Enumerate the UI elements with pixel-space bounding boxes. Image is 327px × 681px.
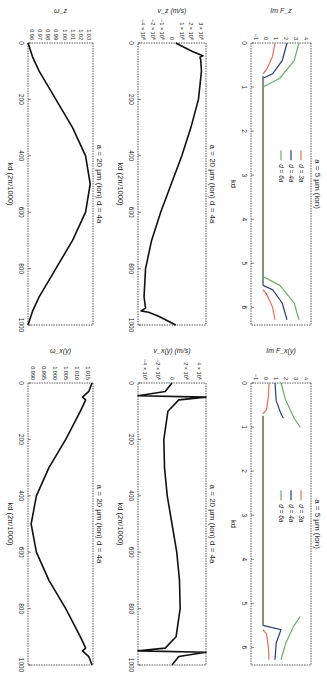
x-tick-label: 2	[241, 469, 248, 473]
x-tick-label: 0	[128, 41, 135, 45]
series-line	[263, 290, 275, 320]
series-line	[263, 630, 269, 660]
y-tick-label: 4 × 10⁶	[196, 362, 202, 380]
x-tick-label: 0	[18, 381, 25, 385]
y-tick-label: 1.005	[63, 366, 69, 380]
x-axis-label: kd (2π/1000)	[116, 502, 125, 546]
x-tick-label: 4	[241, 557, 248, 561]
y-tick-label: 0	[263, 377, 269, 380]
x-axis-label: kd (2π/1000)	[6, 502, 15, 546]
legend-label: d = 3a	[298, 164, 305, 183]
x-tick-label: 400	[18, 490, 25, 501]
y-tick-label: 3	[293, 377, 299, 380]
legend-label: d = 4a	[288, 504, 295, 523]
y-tick-label: −1	[253, 374, 259, 380]
y-tick-label: −1 × 10⁶	[159, 19, 165, 40]
x-tick-label: 600	[128, 207, 135, 218]
y-tick-label: 0	[169, 37, 175, 40]
panel-omega_xy: a = 20 µm (ion) d = 4a02004006008001000k…	[6, 347, 104, 673]
plot-frame	[251, 383, 311, 665]
x-axis-label: kd	[229, 520, 238, 528]
x-tick-label: 200	[128, 434, 135, 445]
x-tick-label: 0	[128, 381, 135, 385]
y-tick-label: 4	[303, 377, 309, 380]
x-tick-label: 3	[241, 173, 248, 177]
y-tick-label: −1	[253, 34, 259, 40]
plot-frame	[28, 43, 93, 325]
y-axis-label: Im F_z	[270, 7, 292, 14]
chart-title: a = 5 µm (ion)	[313, 159, 322, 209]
chart-title: a = 20 µm (ion) d = 4a	[95, 145, 104, 224]
x-tick-label: 6	[241, 646, 248, 650]
y-tick-label: −2 × 10⁶	[150, 19, 156, 40]
x-tick-label: 1000	[18, 318, 25, 333]
x-tick-label: 400	[18, 150, 25, 161]
chart-title: a = 20 µm (ion) d = 4a	[208, 145, 217, 224]
data-curve	[138, 383, 206, 665]
x-axis-label: kd (2π/1000)	[116, 162, 125, 206]
x-tick-label: 0	[18, 41, 25, 45]
y-tick-label: 2 × 10⁶	[188, 22, 194, 40]
x-tick-label: 0	[241, 41, 248, 45]
panel-im_F_xy: a = 5 µm (ion)0123456kd−101234Im F_x(y)d…	[229, 347, 322, 665]
series-line	[263, 383, 269, 414]
series-line	[281, 383, 300, 427]
x-tick-label: 800	[18, 263, 25, 274]
x-tick-label: 3	[241, 513, 248, 517]
data-curve	[141, 43, 203, 325]
y-tick-label: 1.02	[78, 29, 84, 40]
x-axis-label: kd	[229, 180, 238, 188]
x-tick-label: 5	[241, 602, 248, 606]
y-tick-label: 0.98	[45, 29, 51, 40]
x-tick-label: 800	[128, 263, 135, 274]
series-line	[263, 43, 275, 74]
chart-title: a = 5 µm (ion)	[313, 499, 322, 549]
x-tick-label: 800	[18, 603, 25, 614]
y-tick-label: 0.99	[53, 29, 59, 40]
x-tick-label: 400	[128, 150, 135, 161]
legend-label: d = 3a	[298, 504, 305, 523]
y-tick-label: 1.01	[70, 29, 76, 40]
y-tick-label: 2	[283, 37, 289, 40]
y-tick-label: 1.03	[86, 29, 92, 40]
chart-title: a = 20 µm (ion) d = 4a	[95, 485, 104, 564]
y-tick-label: 1 × 10⁶	[179, 22, 185, 40]
y-axis-label: Im F_x(y)	[266, 347, 296, 355]
y-tick-label: 3 × 10⁶	[198, 22, 204, 40]
x-tick-label: 200	[18, 94, 25, 105]
y-axis-label: v_z (m/s)	[158, 7, 187, 15]
series-line	[263, 625, 281, 659]
series-line	[281, 617, 300, 660]
x-tick-label: 0	[241, 381, 248, 385]
y-tick-label: 0.97	[37, 29, 43, 40]
y-tick-label: 1.00	[62, 29, 68, 40]
y-tick-label: 0	[169, 377, 175, 380]
x-tick-label: 600	[18, 547, 25, 558]
x-tick-label: 1000	[18, 658, 25, 673]
panel-omega_z: a = 20 µm (ion) d = 4a02004006008001000k…	[6, 7, 104, 333]
data-curve	[31, 383, 92, 665]
y-tick-label: −4 × 10⁶	[142, 359, 148, 380]
x-tick-label: 1	[241, 425, 248, 429]
y-tick-label: 1	[273, 37, 279, 40]
panel-im_F_z: a = 5 µm (ion)0123456kd−101234Im F_zd = …	[229, 7, 322, 325]
y-tick-label: 4	[303, 37, 309, 40]
x-tick-label: 600	[128, 547, 135, 558]
x-tick-label: 600	[18, 207, 25, 218]
y-tick-label: 3	[293, 37, 299, 40]
x-tick-label: 2	[241, 129, 248, 133]
y-tick-label: 1	[273, 377, 279, 380]
x-tick-label: 1000	[128, 658, 135, 673]
y-tick-label: 2	[283, 377, 289, 380]
y-tick-label: 1.010	[74, 366, 80, 380]
legend-label: d = 6a	[278, 504, 285, 523]
y-axis-label: ω_x(y)	[50, 347, 71, 355]
y-tick-label: 1.000	[52, 366, 58, 380]
plot-frame	[28, 383, 93, 665]
panel-v_z: a = 20 µm (ion) d = 4a02004006008001000k…	[116, 7, 217, 333]
y-tick-label: −4 × 10⁶	[140, 19, 146, 40]
x-tick-label: 1	[241, 85, 248, 89]
x-tick-label: 5	[241, 262, 248, 266]
y-tick-label: 2 × 10⁶	[183, 362, 189, 380]
x-tick-label: 400	[128, 490, 135, 501]
